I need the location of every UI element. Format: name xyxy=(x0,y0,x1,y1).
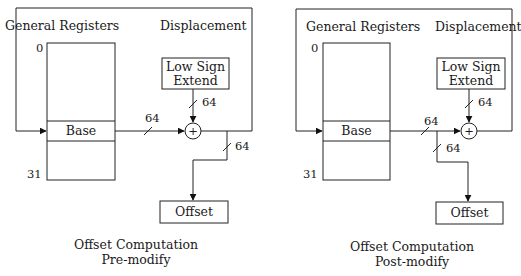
offset-label: Offset xyxy=(451,205,489,220)
displacement-label: Displacement xyxy=(435,19,521,34)
base-width: 64 xyxy=(145,111,160,125)
sign-extend-label-line1: Low Sign xyxy=(166,59,225,74)
caption-mode: Pre-modify xyxy=(101,252,171,267)
output-width: 64 xyxy=(446,141,461,155)
sign-extend-label-line2: Extend xyxy=(173,73,218,88)
register-index-top: 0 xyxy=(311,41,318,55)
general-registers-label: General Registers xyxy=(306,19,420,34)
register-file xyxy=(47,43,115,180)
adder-symbol: + xyxy=(188,124,198,138)
offset-label: Offset xyxy=(175,204,213,219)
output-width: 64 xyxy=(235,139,250,153)
register-index-top: 0 xyxy=(36,41,43,55)
displacement-label: Displacement xyxy=(160,18,247,33)
caption-title: Offset Computation xyxy=(74,237,198,252)
output-wire xyxy=(193,131,227,200)
register-index-bottom: 31 xyxy=(27,167,42,181)
sign-extend-label-line1: Low Sign xyxy=(441,59,500,74)
register-file xyxy=(323,43,390,180)
adder-symbol: + xyxy=(464,124,474,138)
pre-modify-diagram: General Registers Displacement Base 0 31… xyxy=(5,8,252,267)
register-index-bottom: 31 xyxy=(303,167,318,181)
sign-extend-label-line2: Extend xyxy=(449,73,494,88)
sign-extend-width: 64 xyxy=(478,95,493,109)
caption-mode: Post-modify xyxy=(375,254,450,269)
sign-extend-width: 64 xyxy=(202,95,217,109)
base-register-label: Base xyxy=(341,123,371,138)
general-registers-label: General Registers xyxy=(5,18,119,33)
post-modify-diagram: General Registers Displacement Base 0 31… xyxy=(296,9,521,269)
base-register-label: Base xyxy=(66,123,96,138)
base-width: 64 xyxy=(424,114,439,128)
offset-computation-diagrams: General Registers Displacement Base 0 31… xyxy=(0,0,521,276)
caption-title: Offset Computation xyxy=(350,239,474,254)
